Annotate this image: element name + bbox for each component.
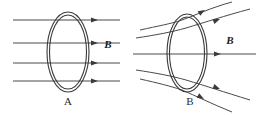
panel-b-label: B [186,95,193,107]
panel-b: B B [133,2,256,112]
panel-a-field-lines [13,17,120,83]
field-line-arrowhead [198,8,207,16]
panel-b-field-lines [133,2,256,112]
figure-canvas: B A [0,0,258,115]
loop-outer-edge [47,12,89,92]
loop-inner-edge [50,15,87,89]
field-line-arrowhead [91,40,98,45]
field-line-arrowhead [91,60,98,65]
panel-b-field-vector-label: B [225,34,233,46]
field-line [140,2,232,30]
field-line-arrowhead [91,78,98,83]
panel-a: B A [13,12,120,107]
field-line-arrowhead [214,51,221,56]
magnetic-field-figure: B A [0,0,258,115]
panel-a-field-vector-label: B [103,38,111,50]
field-line-arrowhead [91,17,98,22]
panel-a-label: A [64,95,72,107]
panel-a-loop [47,12,89,92]
